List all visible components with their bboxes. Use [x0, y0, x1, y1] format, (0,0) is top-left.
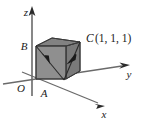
coordinate-diagram: z y x B O A C (1, 1, 1)	[0, 0, 141, 120]
z-axis-label: z	[23, 6, 29, 18]
x-axis-label: x	[101, 108, 107, 120]
vertex-label-a: A	[40, 87, 48, 99]
point-c-annotation: C (1, 1, 1)	[86, 32, 132, 45]
vertex-label-b: B	[21, 40, 28, 52]
y-axis-label: y	[126, 68, 132, 80]
point-c-coordinates: (1, 1, 1)	[95, 32, 132, 45]
vertex-label-o: O	[17, 82, 25, 94]
vertex-label-c: C	[86, 32, 94, 44]
cube	[36, 38, 80, 80]
figure-container: z y x B O A C (1, 1, 1)	[0, 0, 141, 120]
z-axis	[29, 6, 36, 96]
